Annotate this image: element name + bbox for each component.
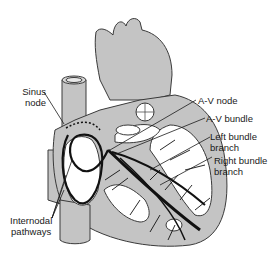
heart-illustration (48, 19, 227, 247)
label-text: Internodal (10, 215, 52, 226)
label-text: pathways (10, 226, 52, 237)
aorta (95, 19, 172, 100)
label-av-bundle: A-V bundle (206, 113, 253, 124)
label-sinus-node: Sinus node (22, 86, 46, 108)
label-left-bundle-branch: Left bundle branch (210, 131, 257, 153)
label-right-bundle-branch: Right bundle branch (214, 155, 267, 177)
label-text: branch (210, 142, 257, 153)
label-internodal-pathways: Internodal pathways (10, 215, 52, 237)
label-av-node: A-V node (198, 95, 238, 106)
label-text: A-V node (198, 95, 238, 106)
inferior-vena-cava (60, 200, 90, 244)
label-text: branch (214, 166, 267, 177)
label-text: Right bundle (214, 155, 267, 166)
label-text: node (22, 97, 46, 108)
label-text: Sinus (22, 86, 46, 97)
label-text: A-V bundle (206, 113, 253, 124)
label-text: Left bundle (210, 131, 257, 142)
